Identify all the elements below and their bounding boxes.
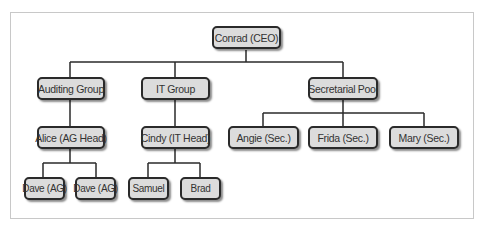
node-angie: Angie (Sec.) [228, 126, 299, 149]
node-frida: Frida (Sec.) [308, 126, 378, 149]
node-secretarial-pool: Secretarial Pool [308, 77, 378, 100]
node-brad: Brad [180, 177, 221, 200]
node-cindy: Cindy (IT Head) [141, 126, 210, 149]
node-ceo: Conrad (CEO) [212, 26, 281, 49]
node-dave-1: Dave (AG) [24, 177, 65, 200]
node-auditing-group: Auditing Group [37, 77, 105, 100]
node-it-group: IT Group [141, 77, 210, 100]
node-alice: Alice (AG Head) [37, 126, 105, 149]
node-samuel: Samuel [128, 177, 169, 200]
node-dave-2: Dave (AG) [75, 177, 116, 200]
node-mary: Mary (Sec.) [389, 126, 459, 149]
